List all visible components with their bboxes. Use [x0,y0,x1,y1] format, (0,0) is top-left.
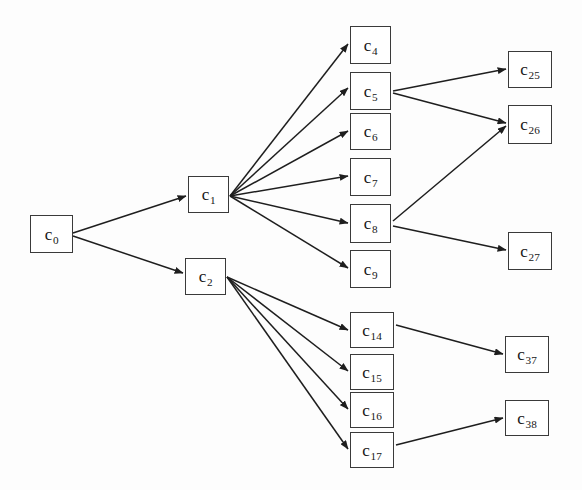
node-label-c8: c8 [364,215,378,232]
node-c26[interactable]: c26 [508,105,552,144]
node-subscript-c2: 2 [207,276,213,288]
node-c4[interactable]: c4 [350,26,391,64]
node-subscript-c7: 7 [372,177,378,189]
node-c9[interactable]: c9 [350,250,391,288]
node-label-c14: c14 [362,322,381,339]
edge-c5-to-c26 [393,93,506,123]
edge-c2-to-c15 [227,277,348,371]
node-label-c25: c25 [520,61,539,78]
edge-c17-to-c38 [396,418,503,445]
edge-c14-to-c37 [396,325,503,354]
edge-c1-to-c8 [230,196,348,223]
node-c17[interactable]: c17 [350,432,394,468]
edges [73,44,506,449]
node-label-c17: c17 [362,442,381,459]
edge-c8-to-c26 [393,126,506,221]
node-subscript-c1: 1 [210,194,216,206]
node-label-c0: c0 [45,226,59,243]
diagram-canvas: c0c1c2c4c5c6c7c8c9c14c15c16c17c25c26c27c… [0,0,582,490]
node-subscript-c27: 27 [529,251,541,263]
node-c2[interactable]: c2 [185,258,226,295]
node-label-c2: c2 [199,268,213,285]
node-c38[interactable]: c38 [505,400,549,436]
node-c25[interactable]: c25 [508,51,552,88]
edge-c0-to-c1 [73,196,186,233]
node-subscript-c14: 14 [371,330,383,342]
edge-c5-to-c25 [393,69,506,91]
node-label-c5: c5 [364,83,378,100]
node-c8[interactable]: c8 [350,204,391,243]
node-label-c16: c16 [362,402,381,419]
node-subscript-c26: 26 [529,124,541,136]
node-subscript-c5: 5 [372,91,378,103]
node-label-c9: c9 [364,261,378,278]
node-label-c4: c4 [364,37,378,54]
node-c27[interactable]: c27 [508,232,552,270]
node-label-c37: c37 [517,346,536,363]
node-subscript-c4: 4 [372,45,378,57]
edge-c0-to-c2 [73,236,183,273]
node-subscript-c0: 0 [53,234,59,246]
node-subscript-c8: 8 [372,223,378,235]
node-c14[interactable]: c14 [350,312,394,348]
node-c6[interactable]: c6 [350,113,391,150]
node-c0[interactable]: c0 [30,215,73,253]
node-label-c6: c6 [364,123,378,140]
node-label-c15: c15 [362,364,381,381]
node-c15[interactable]: c15 [350,354,394,390]
node-label-c38: c38 [517,410,536,427]
edge-c1-to-c5 [230,88,348,196]
edge-c8-to-c27 [393,226,506,250]
node-subscript-c38: 38 [526,418,538,430]
node-subscript-c6: 6 [372,131,378,143]
node-c1[interactable]: c1 [188,176,229,213]
node-subscript-c25: 25 [529,69,541,81]
node-subscript-c9: 9 [372,269,378,281]
node-c37[interactable]: c37 [505,336,549,373]
node-c16[interactable]: c16 [350,392,394,428]
node-subscript-c15: 15 [371,372,383,384]
node-label-c1: c1 [202,186,216,203]
edge-layer [0,0,582,490]
node-label-c26: c26 [520,116,539,133]
node-label-c7: c7 [364,169,378,186]
node-subscript-c37: 37 [526,354,538,366]
node-label-c27: c27 [520,243,539,260]
edge-c1-to-c9 [230,196,348,268]
node-c5[interactable]: c5 [350,72,391,110]
node-subscript-c17: 17 [371,450,383,462]
node-c7[interactable]: c7 [350,158,391,196]
edge-c1-to-c4 [230,44,348,196]
node-subscript-c16: 16 [371,410,383,422]
edge-c2-to-c16 [227,277,348,409]
